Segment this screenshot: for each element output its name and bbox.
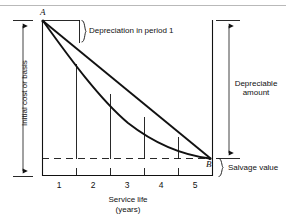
x-tick-label-4: 4: [154, 180, 168, 190]
x-tick-label-3: 3: [120, 180, 134, 190]
y-axis-title: Initial cost or basis: [20, 60, 29, 126]
x-tick-label-2: 2: [86, 180, 100, 190]
point-a-marker: [41, 19, 44, 22]
depreciable-amount-label-line2: amount: [230, 88, 282, 98]
depreciation-period-1-label: Depreciation in period 1: [89, 26, 174, 35]
salvage-value-label: Salvage value: [228, 163, 278, 172]
x-tick-label-5: 5: [188, 180, 202, 190]
x-tick-label-1: 1: [52, 180, 66, 190]
depreciation-period-1-brace: [82, 21, 86, 43]
salvage-value-brace: [219, 159, 223, 177]
depreciation-figure: A B Depreciation in period 1 Initial cos…: [0, 0, 286, 220]
point-a-label: A: [40, 7, 46, 17]
x-axis-title: Service life: [88, 195, 168, 205]
straight-line-depreciation: [43, 21, 210, 158]
point-b-label: B: [206, 159, 212, 169]
x-axis-subtitle: (years): [88, 205, 168, 215]
